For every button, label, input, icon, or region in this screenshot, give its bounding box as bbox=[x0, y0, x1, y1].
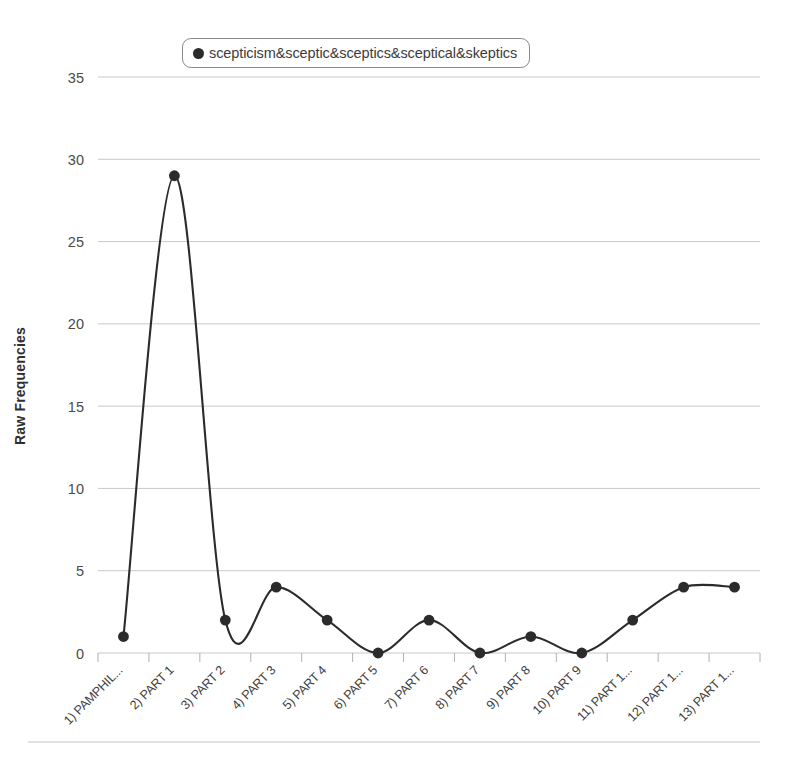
x-tick-label: 10) PART 9 bbox=[530, 663, 584, 717]
data-point[interactable] bbox=[678, 582, 689, 593]
gridlines bbox=[98, 77, 760, 653]
x-tick-label: 1) PAMPHIL... bbox=[61, 663, 125, 727]
y-tick-label: 25 bbox=[68, 234, 84, 250]
y-tick-label: 5 bbox=[76, 563, 84, 579]
data-point[interactable] bbox=[729, 582, 740, 593]
x-tick-label: 2) PART 1 bbox=[127, 663, 176, 712]
x-tick-label: 9) PART 8 bbox=[484, 663, 533, 712]
x-tick-label: 6) PART 5 bbox=[331, 663, 380, 712]
chart-legend[interactable]: scepticism&sceptic&sceptics&sceptical&sk… bbox=[182, 38, 530, 68]
chart-container: scepticism&sceptic&sceptics&sceptical&sk… bbox=[0, 0, 786, 772]
x-tick-label: 3) PART 2 bbox=[178, 663, 227, 712]
y-tick-label: 15 bbox=[68, 399, 84, 415]
data-point[interactable] bbox=[424, 615, 435, 626]
data-point[interactable] bbox=[475, 648, 486, 659]
y-tick-label: 0 bbox=[76, 646, 84, 662]
x-tick-label: 5) PART 4 bbox=[280, 663, 329, 712]
series-line-0 bbox=[123, 176, 734, 654]
y-axis-tick-labels: 05101520253035 bbox=[68, 70, 84, 662]
x-tick-label: 8) PART 7 bbox=[433, 663, 482, 712]
data-point[interactable] bbox=[220, 615, 231, 626]
data-point[interactable] bbox=[373, 648, 384, 659]
data-point[interactable] bbox=[271, 582, 282, 593]
data-point[interactable] bbox=[118, 631, 129, 642]
data-point[interactable] bbox=[576, 648, 587, 659]
x-tick-label: 7) PART 6 bbox=[382, 663, 431, 712]
y-tick-label: 20 bbox=[68, 316, 84, 332]
x-tick-label: 4) PART 3 bbox=[229, 663, 278, 712]
legend-marker-icon bbox=[193, 48, 204, 59]
y-tick-label: 10 bbox=[68, 481, 84, 497]
data-point[interactable] bbox=[525, 631, 536, 642]
x-axis-tick-labels: 1) PAMPHIL...2) PART 13) PART 24) PART 3… bbox=[61, 663, 736, 727]
y-tick-label: 35 bbox=[68, 70, 84, 86]
legend-item-label: scepticism&sceptic&sceptics&sceptical&sk… bbox=[209, 45, 517, 61]
data-line bbox=[123, 176, 734, 654]
y-tick-label: 30 bbox=[68, 152, 84, 168]
x-axis-tick-marks bbox=[98, 653, 760, 662]
data-markers bbox=[118, 170, 740, 658]
data-point[interactable] bbox=[322, 615, 333, 626]
data-point[interactable] bbox=[627, 615, 638, 626]
data-point[interactable] bbox=[169, 170, 180, 181]
plot-area: 05101520253035 1) PAMPHIL...2) PART 13) … bbox=[0, 0, 786, 772]
